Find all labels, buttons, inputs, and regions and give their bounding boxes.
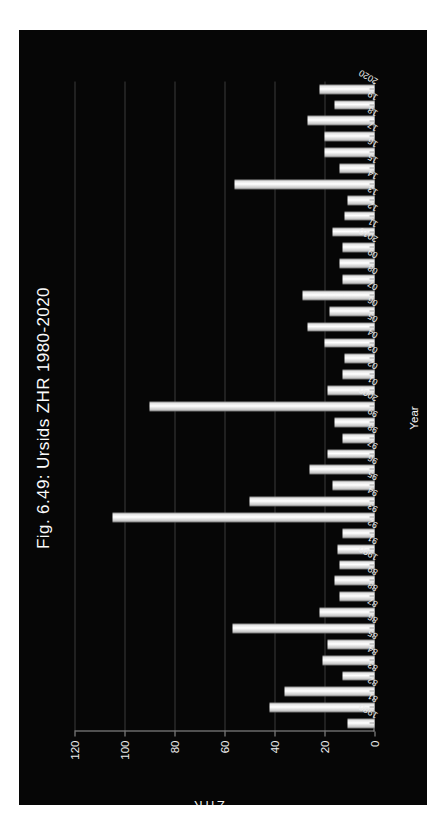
bar-slot	[74, 319, 374, 335]
bar	[232, 623, 375, 633]
bar-slot	[74, 176, 374, 192]
x-tick-mark	[369, 357, 374, 358]
x-tick-mark	[369, 579, 374, 580]
bar-slot	[74, 224, 374, 240]
x-tick-mark	[369, 326, 374, 327]
bar-slot	[74, 303, 374, 319]
bar	[149, 401, 374, 411]
x-tick-mark	[369, 659, 374, 660]
bar-slot	[74, 430, 374, 446]
bar-slot	[74, 271, 374, 287]
bar-slot	[74, 81, 374, 97]
y-tick-mark	[124, 731, 125, 736]
bar	[324, 147, 374, 157]
x-axis-label: Year	[407, 30, 419, 805]
bar	[112, 512, 375, 522]
bar-slot	[74, 461, 374, 477]
bar	[309, 464, 374, 474]
x-tick-mark	[369, 215, 374, 216]
x-tick-mark	[369, 342, 374, 343]
bar	[327, 449, 375, 459]
bar-slot	[74, 112, 374, 128]
x-tick-mark	[369, 310, 374, 311]
y-tick-mark	[224, 731, 225, 736]
y-tick-mark	[374, 731, 375, 736]
x-tick-mark	[369, 706, 374, 707]
bar-slot	[74, 477, 374, 493]
y-tick-mark	[324, 731, 325, 736]
bar-slot	[74, 398, 374, 414]
x-tick-mark	[369, 120, 374, 121]
x-tick-mark	[369, 278, 374, 279]
bar-slot	[74, 509, 374, 525]
x-tick-mark	[369, 437, 374, 438]
bar-slot	[74, 493, 374, 509]
bar	[324, 338, 374, 348]
bar-slot	[74, 335, 374, 351]
x-tick-mark	[369, 548, 374, 549]
y-tick-label: 20	[318, 733, 330, 805]
bar-chart-figure: Fig. 6.49: Ursids ZHR 1980-2020 02040608…	[19, 30, 427, 805]
x-tick-mark	[369, 373, 374, 374]
x-tick-mark	[369, 564, 374, 565]
x-tick-mark	[369, 136, 374, 137]
x-tick-mark	[369, 516, 374, 517]
bar-slot	[74, 208, 374, 224]
y-tick-mark	[74, 731, 75, 736]
y-tick-label: 100	[118, 733, 130, 805]
bar-slot	[74, 160, 374, 176]
y-tick-label: 80	[168, 733, 180, 805]
bar-slot	[74, 541, 374, 557]
bar	[234, 179, 374, 189]
rotated-figure-wrapper: Fig. 6.49: Ursids ZHR 1980-2020 02040608…	[19, 30, 427, 805]
x-tick-mark	[369, 627, 374, 628]
bar	[324, 131, 374, 141]
x-tick-mark	[369, 246, 374, 247]
bar-slot	[74, 715, 374, 731]
x-tick-mark	[369, 611, 374, 612]
bar-slot	[74, 636, 374, 652]
bar-slot	[74, 683, 374, 699]
x-tick-mark	[369, 421, 374, 422]
x-tick-mark	[369, 643, 374, 644]
bar	[329, 306, 374, 316]
bar-slot	[74, 604, 374, 620]
bar-slot	[74, 668, 374, 684]
y-tick-mark	[274, 731, 275, 736]
bar	[302, 290, 375, 300]
bar	[249, 496, 374, 506]
y-tick-label: 120	[68, 733, 80, 805]
bar	[319, 84, 374, 94]
x-tick-mark	[369, 262, 374, 263]
bar-slot	[74, 144, 374, 160]
bar-slot	[74, 525, 374, 541]
x-tick-mark	[369, 722, 374, 723]
bar	[307, 322, 375, 332]
bar-slot	[74, 97, 374, 113]
x-tick-mark	[369, 199, 374, 200]
bar-slot	[74, 620, 374, 636]
bar	[307, 116, 375, 126]
x-tick-mark	[369, 88, 374, 89]
x-tick-mark	[369, 500, 374, 501]
bar-slot	[74, 572, 374, 588]
bar	[327, 639, 375, 649]
x-tick-mark	[369, 389, 374, 390]
bar	[284, 686, 374, 696]
bar-slot	[74, 382, 374, 398]
x-tick-mark	[369, 294, 374, 295]
bar	[319, 607, 374, 617]
y-tick-label: 40	[268, 733, 280, 805]
x-tick-mark	[369, 104, 374, 105]
bar-slot	[74, 255, 374, 271]
x-tick-mark	[369, 675, 374, 676]
x-tick-mark	[369, 532, 374, 533]
x-tick-mark	[369, 595, 374, 596]
bar-slot	[74, 588, 374, 604]
bar-slot	[74, 192, 374, 208]
x-tick-mark	[369, 167, 374, 168]
y-tick-mark	[174, 731, 175, 736]
bar-slot	[74, 128, 374, 144]
bar-slot	[74, 652, 374, 668]
y-tick-label: 60	[218, 733, 230, 805]
